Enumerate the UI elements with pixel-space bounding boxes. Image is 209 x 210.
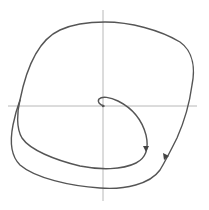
arrow-head-icon (143, 146, 149, 152)
phase-portrait-diagram (0, 0, 209, 210)
spiral-trajectory (18, 97, 147, 168)
origin-point (102, 105, 104, 107)
direction-arrows (143, 146, 169, 160)
